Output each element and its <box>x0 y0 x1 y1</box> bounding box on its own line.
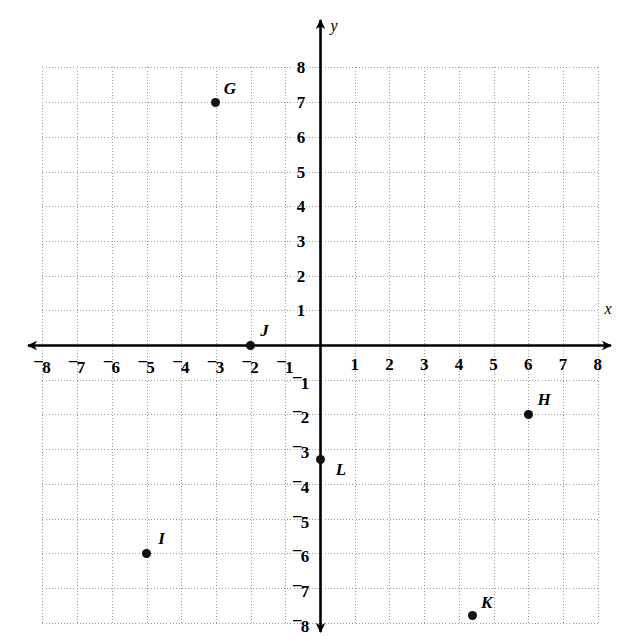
x-tick-label: –8 <box>34 352 50 376</box>
negative-sign: – <box>293 437 301 454</box>
negative-sign: – <box>69 352 77 369</box>
x-tick-label: 4 <box>455 356 463 373</box>
negative-sign: – <box>34 352 42 369</box>
y-tick-label: 4 <box>297 198 305 215</box>
negative-sign: – <box>208 352 216 369</box>
x-tick-label: –6 <box>104 352 120 376</box>
y-tick-label: –5 <box>293 506 309 530</box>
x-tick-label: 5 <box>489 356 497 373</box>
x-tick-label: 8 <box>593 356 601 373</box>
y-tick-label: –2 <box>293 402 309 426</box>
x-axis-name-label: x <box>604 301 611 317</box>
y-tick-label: 5 <box>297 163 305 180</box>
y-tick-label: 7 <box>297 94 305 111</box>
negative-sign: – <box>138 352 146 369</box>
y-axis-name-label: y <box>330 18 337 34</box>
negative-sign: – <box>173 352 181 369</box>
x-tick-label: –3 <box>208 352 224 376</box>
x-tick-label: 3 <box>420 356 428 373</box>
negative-sign: – <box>293 576 301 593</box>
y-tick-label: –1 <box>293 368 309 392</box>
negative-sign: – <box>293 402 301 419</box>
x-tick-label: 7 <box>559 356 567 373</box>
axis-tick-labels: xy–8–7–6–5–4–3–2–11234567887654321–1–2–3… <box>0 0 617 639</box>
x-tick-label: –4 <box>173 352 189 376</box>
y-tick-label: 2 <box>297 267 305 284</box>
x-tick-label: 6 <box>524 356 532 373</box>
negative-sign: – <box>104 352 112 369</box>
y-tick-label: –4 <box>293 472 309 496</box>
negative-sign: – <box>293 472 301 489</box>
y-tick-label: 8 <box>297 59 305 76</box>
y-tick-label: 1 <box>297 302 305 319</box>
negative-sign: – <box>293 611 301 628</box>
x-tick-label: –7 <box>69 352 85 376</box>
y-tick-label: –8 <box>293 611 309 635</box>
y-tick-label: –6 <box>293 541 309 565</box>
negative-sign: – <box>293 541 301 558</box>
negative-sign: – <box>243 352 251 369</box>
x-tick-label: 2 <box>385 356 393 373</box>
coordinate-plane-figure: GJHLIK xy–8–7–6–5–4–3–2–1123456788765432… <box>0 0 617 639</box>
y-tick-label: 3 <box>297 232 305 249</box>
x-tick-label: 1 <box>351 356 359 373</box>
negative-sign: – <box>293 506 301 523</box>
y-tick-label: –3 <box>293 437 309 461</box>
x-tick-label: –1 <box>277 352 293 376</box>
y-tick-label: 6 <box>297 128 305 145</box>
y-tick-label: –7 <box>293 576 309 600</box>
negative-sign: – <box>293 368 301 385</box>
x-tick-label: –5 <box>138 352 154 376</box>
x-tick-label: –2 <box>243 352 259 376</box>
negative-sign: – <box>277 352 285 369</box>
